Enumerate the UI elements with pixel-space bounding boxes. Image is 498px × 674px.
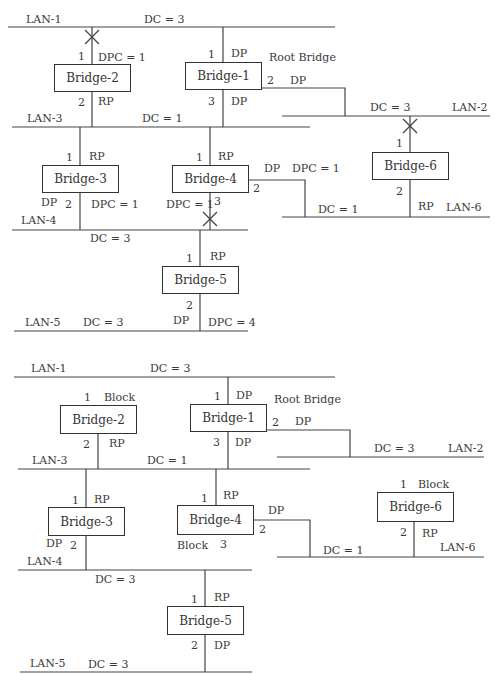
port-role: Block: [177, 540, 208, 552]
lan-label: LAN-6: [440, 542, 476, 554]
bridge-box: Bridge-4: [172, 165, 249, 193]
port-role: DP: [268, 505, 284, 517]
bridge-box: Bridge-5: [162, 266, 239, 294]
port-number: 1: [72, 495, 79, 507]
designated-cost-label: DC = 1: [323, 545, 363, 557]
lan-label: LAN-2: [448, 443, 484, 455]
port-role: DP: [290, 75, 306, 87]
port-role: DP: [235, 437, 251, 449]
port-cost: DPC = 1: [292, 163, 340, 175]
lan-label: LAN-3: [32, 455, 68, 467]
port-role: RP: [210, 251, 226, 263]
port-number: 2: [186, 300, 193, 312]
lan-label: LAN-1: [31, 363, 67, 375]
port-number: 2: [400, 527, 407, 539]
port-number: 2: [396, 186, 403, 198]
port-number: 1: [84, 392, 91, 404]
lan-label: LAN-1: [26, 14, 62, 26]
port-number: 3: [214, 196, 221, 208]
bridge-box: Bridge-6: [377, 492, 454, 522]
lan-label: LAN-3: [27, 113, 63, 125]
bridge-box: Bridge-5: [167, 606, 244, 635]
port-number: 2: [267, 75, 274, 87]
port-role: DP: [46, 538, 62, 550]
port-role: RP: [223, 490, 239, 502]
port-number: 1: [400, 479, 407, 491]
port-role: Block: [418, 479, 449, 491]
port-number: 2: [65, 199, 72, 211]
designated-cost-label: DC = 3: [144, 14, 184, 26]
lan-label: LAN-4: [21, 215, 57, 227]
designated-cost-label: DC = 1: [142, 113, 182, 125]
port-number: 2: [83, 439, 90, 451]
port-role: DP: [231, 48, 247, 60]
port-role: RP: [98, 96, 114, 108]
port-role: RP: [214, 592, 230, 604]
designated-cost-label: DC = 3: [88, 659, 128, 671]
wiring-layer: [0, 0, 498, 674]
port-role: DPC = 1: [98, 52, 146, 64]
port-number: 3: [208, 96, 215, 108]
port-role: DP: [231, 96, 247, 108]
lan-label: LAN-6: [446, 202, 482, 214]
root-bridge-label: Root Bridge: [274, 394, 341, 406]
port-role: DP: [295, 416, 311, 428]
bridge-box: Bridge-2: [54, 64, 131, 92]
port-number: 2: [70, 540, 77, 552]
port-number: 2: [253, 183, 260, 195]
bridge-box: Bridge-6: [372, 152, 449, 180]
port-cost: DPC = 4: [208, 317, 256, 329]
port-number: 3: [213, 437, 220, 449]
designated-cost-label: DC = 1: [318, 204, 358, 216]
port-number: 1: [196, 152, 203, 164]
port-role: DP: [264, 163, 280, 175]
port-number: 1: [396, 138, 403, 150]
port-role: RP: [218, 151, 234, 163]
designated-cost-label: DC = 3: [370, 102, 410, 114]
port-number: 1: [66, 152, 73, 164]
lan-label: LAN-5: [30, 658, 66, 670]
port-role: RP: [422, 528, 438, 540]
port-number: 1: [191, 594, 198, 606]
port-number: 2: [259, 524, 266, 536]
lan-label: LAN-4: [27, 556, 63, 568]
bridge-box: Bridge-1: [190, 404, 267, 432]
port-number: 1: [186, 253, 193, 265]
bridge-box: Bridge-3: [48, 507, 125, 536]
port-number: 2: [272, 417, 279, 429]
port-role: DP: [41, 197, 57, 209]
port-role: DP: [214, 640, 230, 652]
lan-label: LAN-2: [452, 102, 488, 114]
bridge-box: Bridge-2: [60, 405, 137, 434]
designated-cost-label: DC = 3: [90, 233, 130, 245]
port-number: 2: [191, 640, 198, 652]
designated-cost-label: DC = 3: [83, 317, 123, 329]
port-role: DPC = 1: [91, 199, 139, 211]
port-role: RP: [418, 201, 434, 213]
port-number: 1: [201, 493, 208, 505]
port-role: DP: [236, 390, 252, 402]
port-number: 2: [78, 97, 85, 109]
designated-cost-label: DC = 3: [374, 443, 414, 455]
port-role: Block: [104, 392, 135, 404]
port-number: 1: [214, 391, 221, 403]
port-role: DP: [173, 315, 189, 327]
port-number: 1: [208, 49, 215, 61]
designated-cost-label: DC = 3: [95, 574, 135, 586]
port-role: RP: [94, 494, 110, 506]
lan-label: LAN-5: [25, 317, 61, 329]
root-bridge-label: Root Bridge: [269, 52, 336, 64]
port-number: 1: [78, 51, 85, 63]
bridge-box: Bridge-1: [185, 62, 262, 90]
port-role: RP: [89, 151, 105, 163]
designated-cost-label: DC = 3: [150, 363, 190, 375]
port-role: RP: [109, 438, 125, 450]
port-role: DPC = 1: [166, 199, 214, 211]
bridge-box: Bridge-4: [177, 505, 254, 535]
designated-cost-label: DC = 1: [147, 455, 187, 467]
port-number: 3: [220, 539, 227, 551]
bridge-box: Bridge-3: [42, 165, 119, 193]
